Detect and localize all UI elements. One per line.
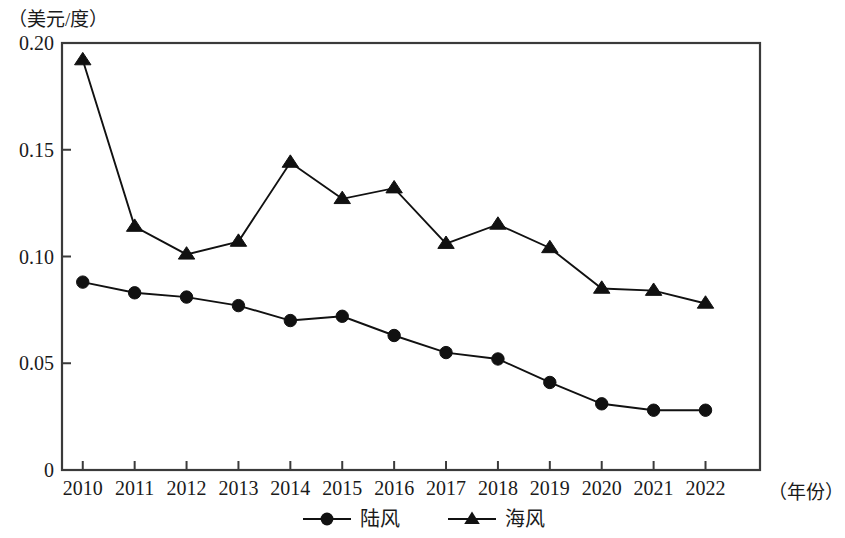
data-point-marker xyxy=(544,376,556,388)
series-line xyxy=(83,282,706,410)
data-point-marker xyxy=(542,240,558,252)
data-series-group xyxy=(75,52,714,416)
y-axis-tick-label: 0.20 xyxy=(0,33,54,53)
data-point-marker xyxy=(336,310,348,322)
data-point-marker xyxy=(126,219,142,231)
data-point-marker xyxy=(386,180,402,192)
data-point-marker xyxy=(230,234,246,246)
data-point-marker xyxy=(128,287,140,299)
data-point-marker xyxy=(180,291,192,303)
y-axis-tick-label: 0.15 xyxy=(0,140,54,160)
x-axis-unit-label: （年份） xyxy=(768,477,844,504)
data-point-marker xyxy=(645,283,661,295)
data-point-marker xyxy=(75,52,91,64)
chart-figure: （美元/度） 00.050.100.150.20 201020112012201… xyxy=(0,0,845,538)
legend-item-offshore[interactable]: 海风 xyxy=(446,508,545,530)
data-point-marker xyxy=(77,276,89,288)
legend-label: 海风 xyxy=(505,509,545,529)
legend-label: 陆风 xyxy=(360,509,400,529)
data-point-marker xyxy=(232,299,244,311)
data-point-marker xyxy=(490,217,506,229)
data-point-marker xyxy=(594,281,610,293)
legend-item-onshore[interactable]: 陆风 xyxy=(301,508,400,530)
plot-area xyxy=(0,0,845,538)
legend-circle-marker-icon xyxy=(301,508,353,530)
x-axis-tick-label: 2022 xyxy=(676,478,736,498)
data-point-marker xyxy=(440,346,452,358)
y-axis-tick-label: 0 xyxy=(0,460,54,480)
data-point-marker xyxy=(284,314,296,326)
data-point-marker xyxy=(699,404,711,416)
series-onshore xyxy=(77,276,712,417)
y-axis-tick-label: 0.05 xyxy=(0,353,54,373)
data-point-marker xyxy=(282,155,298,167)
data-point-marker xyxy=(388,329,400,341)
y-axis-tick-label: 0.10 xyxy=(0,247,54,267)
data-point-marker xyxy=(647,404,659,416)
legend-triangle-marker-icon xyxy=(446,508,498,530)
data-point-marker xyxy=(492,353,504,365)
data-point-marker xyxy=(596,398,608,410)
chart-legend: 陆风海风 xyxy=(0,508,845,530)
series-offshore xyxy=(75,52,714,308)
x-axis-ticks xyxy=(83,461,706,470)
y-axis-ticks xyxy=(62,150,71,364)
